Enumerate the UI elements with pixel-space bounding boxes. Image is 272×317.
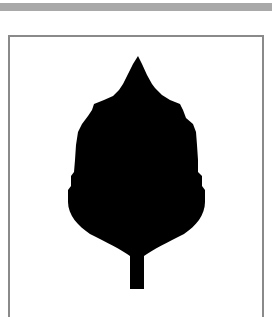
leaf-blade	[68, 56, 205, 256]
leaf-stem	[130, 254, 144, 289]
